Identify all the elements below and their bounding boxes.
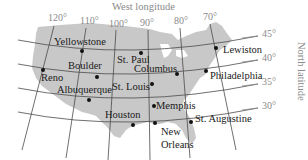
- city-label-memphis: Memphis: [156, 101, 196, 112]
- longitude-label-120: 120°: [48, 13, 67, 23]
- city-label-st-louis: St. Louis: [112, 82, 150, 93]
- city-label-columbus: Columbus: [134, 64, 177, 75]
- city-label-new-orleans-1: New: [161, 127, 181, 138]
- dot-yellowstone: [80, 49, 84, 53]
- dot-st-louis: [150, 82, 154, 86]
- dot-new-orleans: [153, 121, 157, 125]
- city-label-st-augustine: St. Augustine: [195, 114, 252, 125]
- city-label-boulder: Boulder: [68, 61, 102, 72]
- dot-albuquerque: [87, 98, 91, 102]
- west-longitude-title: West longitude: [112, 2, 175, 13]
- city-label-houston: Houston: [105, 110, 141, 121]
- city-label-albuquerque: Albuquerque: [57, 85, 112, 96]
- longitude-label-70: 70°: [203, 12, 217, 22]
- latitude-label-40: 40°: [262, 53, 276, 63]
- longitude-label-80: 80°: [174, 16, 188, 26]
- dot-lewiston: [214, 46, 218, 50]
- new-orleans-line1: New: [161, 126, 181, 137]
- latitude-label-30: 30°: [262, 101, 276, 111]
- latitude-label-35: 35°: [262, 77, 276, 87]
- new-orleans-line2: Orleans: [161, 139, 194, 150]
- longitude-label-110: 110°: [80, 16, 99, 26]
- city-label-new-orleans-2: Orleans: [161, 140, 194, 151]
- latitude-label-45: 45°: [262, 29, 276, 39]
- dot-houston: [131, 123, 135, 127]
- city-label-philadelphia: Philadelphia: [210, 71, 263, 82]
- city-label-reno: Reno: [41, 73, 63, 84]
- north-latitude-title: North latitude: [296, 42, 307, 101]
- dot-boulder: [95, 75, 99, 79]
- longitude-label-90: 90°: [140, 18, 154, 28]
- city-label-yellowstone: Yellowstone: [54, 37, 106, 48]
- dot-st-augustine: [189, 120, 193, 124]
- dot-philadelphia: [204, 69, 208, 73]
- city-label-lewiston: Lewiston: [223, 45, 262, 56]
- longitude-label-100: 100°: [109, 19, 128, 29]
